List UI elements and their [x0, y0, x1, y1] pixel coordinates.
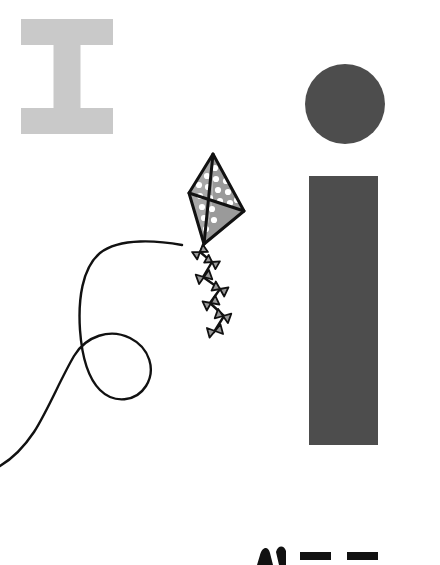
glyph-bar-1: [300, 552, 331, 560]
illustration-canvas: [0, 0, 440, 565]
kite-polka-dot: [211, 217, 217, 223]
kite-polka-dot: [215, 187, 221, 193]
kite-polka-dot: [213, 176, 219, 182]
kite-polka-dot: [228, 163, 234, 169]
kite-polka-dot: [209, 206, 215, 212]
kite-polka-dot: [230, 175, 236, 181]
kite-polka-dot: [225, 189, 231, 195]
scene-svg: [0, 0, 440, 565]
kite-polka-dot: [199, 204, 205, 210]
glyph-bar-2: [347, 552, 378, 560]
dark-circle-shape: [305, 64, 385, 144]
dark-rectangle-shape: [309, 176, 378, 445]
letter-i-bottom-serif: [21, 108, 113, 134]
